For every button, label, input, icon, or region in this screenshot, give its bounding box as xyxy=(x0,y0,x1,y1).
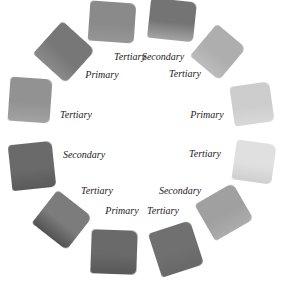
color-swatch-5 xyxy=(231,139,276,184)
color-swatch-10 xyxy=(8,141,57,191)
swatch-label-8: Primary xyxy=(105,206,138,216)
swatch-label-10: Secondary xyxy=(63,150,105,160)
swatch-label-3: Tertiary xyxy=(169,69,201,79)
swatch-label-12: Primary xyxy=(85,70,118,80)
swatch-label-6: Secondary xyxy=(159,186,201,196)
color-wheel: TertiarySecondaryTertiaryPrimaryTertiary… xyxy=(0,0,285,282)
color-swatch-1 xyxy=(88,0,137,43)
color-swatch-9 xyxy=(32,190,93,250)
swatch-label-7: Tertiary xyxy=(147,206,179,216)
swatch-label-2: Secondary xyxy=(142,52,184,62)
swatch-label-9: Tertiary xyxy=(81,186,113,196)
color-swatch-6 xyxy=(194,183,253,241)
color-swatch-11 xyxy=(8,77,53,124)
swatch-label-11: Tertiary xyxy=(60,110,92,120)
swatch-label-5: Tertiary xyxy=(189,149,221,159)
color-swatch-2 xyxy=(147,0,197,42)
color-swatch-7 xyxy=(148,220,204,277)
color-swatch-4 xyxy=(229,81,274,126)
swatch-label-4: Primary xyxy=(190,110,223,120)
color-swatch-8 xyxy=(90,229,138,275)
